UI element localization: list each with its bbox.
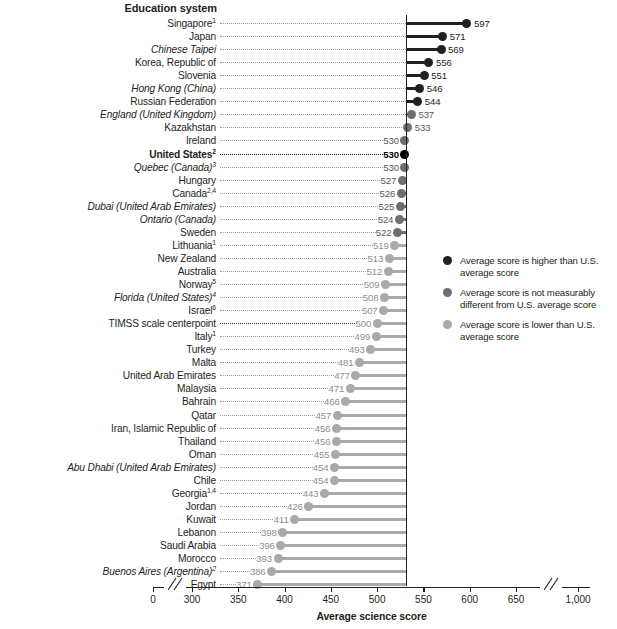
table-row[interactable]: Singapore1597: [0, 17, 617, 30]
score-marker-dot[interactable]: [407, 110, 416, 119]
score-marker-dot[interactable]: [420, 71, 429, 80]
row-leader-line: [220, 428, 314, 429]
table-row[interactable]: United Arab Emirates477: [0, 369, 617, 382]
score-marker-dot[interactable]: [330, 476, 339, 485]
score-marker-dot[interactable]: [304, 502, 313, 511]
row-label-footnote: 1: [212, 330, 216, 337]
table-row[interactable]: Kazakhstan533: [0, 121, 617, 134]
row-label: Korea, Republic of: [135, 56, 216, 69]
score-marker-dot[interactable]: [400, 150, 409, 159]
table-row[interactable]: Thailand456: [0, 435, 617, 448]
row-label: Hong Kong (China): [131, 82, 216, 95]
score-marker-dot[interactable]: [290, 515, 299, 524]
table-row[interactable]: Korea, Republic of556: [0, 56, 617, 69]
table-row[interactable]: Chile454: [0, 474, 617, 487]
table-row[interactable]: Morocco393: [0, 552, 617, 565]
table-row[interactable]: Lithuania1519: [0, 239, 617, 252]
score-marker-dot[interactable]: [366, 345, 375, 354]
table-row[interactable]: Hong Kong (China)546: [0, 82, 617, 95]
score-marker-dot[interactable]: [384, 267, 393, 276]
legend-item[interactable]: Average score is not measurably differen…: [443, 287, 617, 310]
table-row[interactable]: Quebec (Canada)3530: [0, 161, 617, 174]
row-label: Japan: [189, 30, 216, 43]
table-row[interactable]: Bahrain466: [0, 395, 617, 408]
table-row[interactable]: Hungary527: [0, 174, 617, 187]
score-marker-dot[interactable]: [390, 241, 399, 250]
score-marker-dot[interactable]: [278, 528, 287, 537]
table-row[interactable]: United States2530: [0, 148, 617, 161]
score-marker-dot[interactable]: [403, 123, 412, 132]
score-marker-dot[interactable]: [373, 319, 382, 328]
score-marker-dot[interactable]: [400, 163, 409, 172]
x-axis-tick: [238, 587, 239, 592]
row-value: 556: [436, 56, 452, 69]
score-marker-dot[interactable]: [393, 228, 402, 237]
table-row[interactable]: Canada2,4526: [0, 187, 617, 200]
score-marker-dot[interactable]: [276, 541, 285, 550]
x-axis-tick-label: 650: [493, 594, 539, 605]
table-row[interactable]: Kuwait411: [0, 513, 617, 526]
table-row[interactable]: Saudi Arabia396: [0, 539, 617, 552]
x-axis-tick-label: 350: [215, 594, 261, 605]
row-value: 546: [427, 82, 443, 95]
score-marker-dot[interactable]: [331, 450, 340, 459]
score-marker-dot[interactable]: [274, 554, 283, 563]
science-score-chart: Education system Singapore1597Japan571Ch…: [0, 0, 617, 629]
table-row[interactable]: Egypt371: [0, 578, 617, 591]
score-marker-dot[interactable]: [380, 293, 389, 302]
table-row[interactable]: Malaysia471: [0, 382, 617, 395]
score-marker-dot[interactable]: [355, 358, 364, 367]
table-row[interactable]: Georgia1,4443: [0, 487, 617, 500]
table-row[interactable]: Iran, Islamic Republic of456: [0, 422, 617, 435]
table-row[interactable]: Oman455: [0, 448, 617, 461]
score-marker-dot[interactable]: [372, 332, 381, 341]
row-stem-bar: [335, 466, 406, 469]
score-marker-dot[interactable]: [379, 306, 388, 315]
table-row[interactable]: Ireland530: [0, 134, 617, 147]
row-value: 597: [474, 17, 490, 30]
score-marker-dot[interactable]: [395, 215, 404, 224]
score-marker-dot[interactable]: [462, 19, 471, 28]
score-marker-dot[interactable]: [332, 424, 341, 433]
score-marker-dot[interactable]: [413, 97, 422, 106]
table-row[interactable]: Malta481: [0, 356, 617, 369]
table-row[interactable]: Japan571: [0, 30, 617, 43]
score-marker-dot[interactable]: [330, 463, 339, 472]
table-row[interactable]: Dubai (United Arab Emirates)525: [0, 200, 617, 213]
score-marker-dot[interactable]: [415, 84, 424, 93]
score-marker-dot[interactable]: [438, 32, 447, 41]
table-row[interactable]: Chinese Taipei569: [0, 43, 617, 56]
table-row[interactable]: Slovenia551: [0, 69, 617, 82]
table-row[interactable]: Lebanon398: [0, 526, 617, 539]
score-marker-dot[interactable]: [400, 136, 409, 145]
score-marker-dot[interactable]: [385, 254, 394, 263]
table-row[interactable]: Sweden522: [0, 226, 617, 239]
row-leader-line: [220, 154, 383, 155]
table-row[interactable]: Russian Federation544: [0, 95, 617, 108]
score-marker-dot[interactable]: [397, 189, 406, 198]
table-row[interactable]: Ontario (Canada)524: [0, 213, 617, 226]
score-marker-dot[interactable]: [267, 567, 276, 576]
score-marker-dot[interactable]: [396, 202, 405, 211]
score-marker-dot[interactable]: [332, 437, 341, 446]
score-marker-dot[interactable]: [437, 45, 446, 54]
table-row[interactable]: Abu Dhabi (United Arab Emirates)454: [0, 461, 617, 474]
legend-item[interactable]: Average score is lower than U.S. average…: [443, 319, 617, 342]
legend-item[interactable]: Average score is higher than U.S. averag…: [443, 255, 617, 278]
score-marker-dot[interactable]: [424, 58, 433, 67]
row-label: Bahrain: [182, 395, 216, 408]
score-marker-dot[interactable]: [341, 397, 350, 406]
table-row[interactable]: Buenos Aires (Argentina)2386: [0, 565, 617, 578]
table-row[interactable]: England (United Kingdom)537: [0, 108, 617, 121]
score-marker-dot[interactable]: [333, 411, 342, 420]
table-row[interactable]: Jordan426: [0, 500, 617, 513]
score-marker-dot[interactable]: [351, 371, 360, 380]
x-axis-tick: [423, 587, 424, 592]
row-stem-bar: [371, 348, 406, 351]
score-marker-dot[interactable]: [320, 489, 329, 498]
row-leader-line: [220, 219, 377, 220]
score-marker-dot[interactable]: [346, 384, 355, 393]
table-row[interactable]: Qatar457: [0, 409, 617, 422]
score-marker-dot[interactable]: [381, 280, 390, 289]
row-leader-line: [220, 127, 406, 128]
